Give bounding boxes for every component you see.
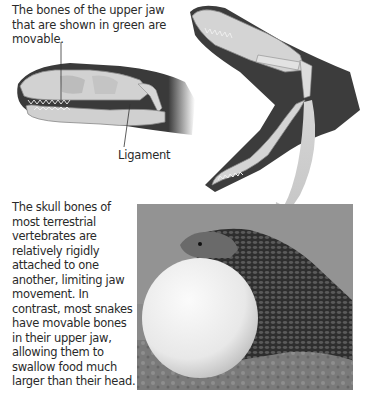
body-caption: The skull bones of most terrestrial vert… bbox=[12, 200, 137, 389]
snake-skull-closed bbox=[17, 42, 195, 147]
snake-skull-open bbox=[190, 6, 360, 192]
ligament-label: Ligament bbox=[118, 148, 170, 162]
snake-eating-egg-photo bbox=[137, 204, 353, 390]
